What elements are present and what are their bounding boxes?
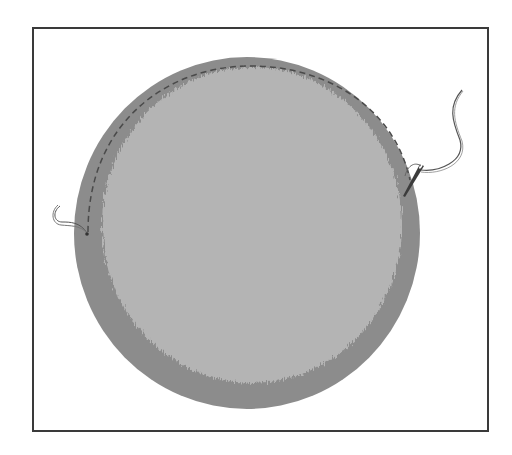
sewing-illustration <box>0 0 512 455</box>
thread-right-icon <box>405 90 463 176</box>
frayed-inner-fabric <box>102 67 402 383</box>
